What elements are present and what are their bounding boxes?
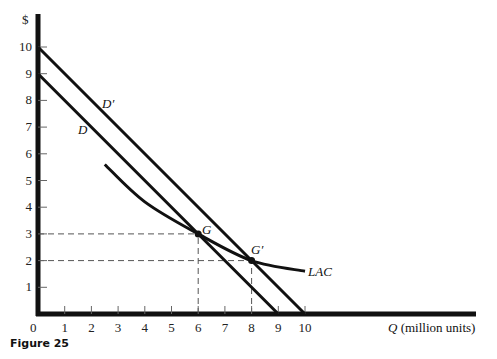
x-tick-label: 1 — [61, 320, 68, 335]
curve-label-d: D — [77, 122, 88, 137]
curve-label-lac: LAC — [307, 264, 332, 279]
y-axis-label: $ — [22, 12, 29, 27]
curves — [38, 47, 305, 314]
x-tick-label: 2 — [88, 320, 95, 335]
x-tick-label: 9 — [275, 320, 282, 335]
x-tick-label: 6 — [195, 320, 202, 335]
point-label-gprime: G′ — [251, 242, 263, 257]
axes — [36, 14, 476, 316]
y-tick-label: 6 — [26, 146, 33, 161]
point-g — [195, 230, 202, 237]
curve-lac — [105, 164, 305, 271]
y-tick-label: 7 — [26, 119, 33, 134]
y-tick-label: 1 — [26, 279, 33, 294]
origin-label: 0 — [30, 320, 37, 335]
y-tick-label: 3 — [26, 226, 33, 241]
x-tick-label: 8 — [248, 320, 255, 335]
y-tick-label: 8 — [26, 92, 33, 107]
figure-caption: Figure 25 — [10, 337, 69, 350]
curve-d — [38, 74, 278, 314]
curve-d-prime — [38, 47, 305, 314]
y-tick-label: 4 — [26, 199, 33, 214]
y-tick-label: 9 — [26, 66, 33, 81]
axis-ticks: 1234567891012345678910 — [19, 39, 312, 335]
y-tick-label: 10 — [19, 39, 32, 54]
y-tick-label: 2 — [26, 253, 33, 268]
x-tick-label: 3 — [115, 320, 122, 335]
x-tick-label: 7 — [222, 320, 229, 335]
x-axis-unit: (million units) — [397, 320, 475, 335]
point-g-prime — [248, 257, 255, 264]
x-tick-label: 4 — [142, 320, 149, 335]
point-label-g: G — [202, 222, 212, 237]
x-tick-label: 10 — [299, 320, 312, 335]
curve-label-dprime: D′ — [101, 96, 114, 111]
chart: 1234567891012345678910 $ 0 D′ D LAC G G′… — [0, 0, 497, 359]
y-tick-label: 5 — [26, 173, 33, 188]
x-tick-label: 5 — [168, 320, 175, 335]
x-axis-title: Q (million units) — [388, 320, 475, 335]
